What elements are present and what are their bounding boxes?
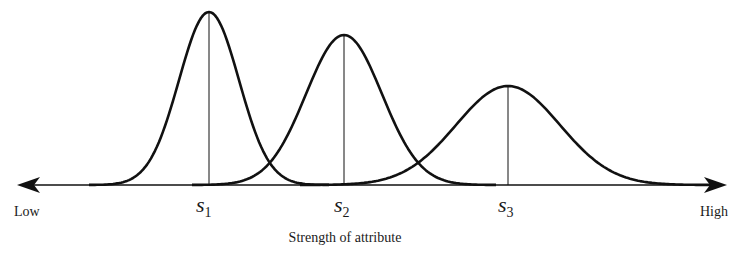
stimulus-label-s1: s1: [196, 192, 212, 220]
distribution-diagram: s1 s2 s3 Low High Strength of attribute: [0, 0, 744, 255]
stimulus-label-s3: s3: [498, 192, 514, 220]
axis-title: Strength of attribute: [289, 230, 402, 245]
stimulus-label-s2: s2: [334, 192, 350, 220]
low-label: Low: [14, 204, 41, 219]
high-label: High: [700, 204, 728, 219]
